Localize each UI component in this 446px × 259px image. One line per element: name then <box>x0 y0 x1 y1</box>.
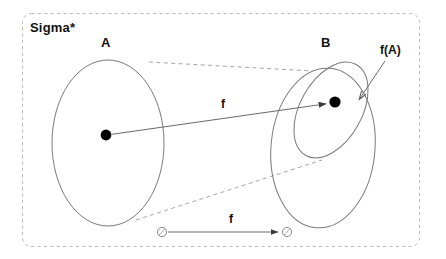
diagram-vector-layer <box>0 0 446 259</box>
function-label-main: f <box>221 98 225 110</box>
projection-line-bottom <box>136 160 322 220</box>
set-a-label: A <box>101 36 110 49</box>
universe-label: Sigma* <box>30 21 75 34</box>
image-fa-ellipse <box>279 49 384 170</box>
fa-callout-arrow <box>360 61 386 99</box>
projection-line-top <box>149 62 313 71</box>
diagram-canvas: Sigma* A B f(A) f f <box>0 0 446 259</box>
universe-boundary <box>23 14 420 247</box>
image-fa-label: f(A) <box>380 44 401 56</box>
set-b-ellipse <box>264 64 382 232</box>
function-label-element: f <box>229 213 233 225</box>
set-a-ellipse <box>52 60 164 226</box>
set-b-label: B <box>321 36 330 49</box>
element-a-dot <box>101 130 112 141</box>
element-fa-dot <box>329 96 340 107</box>
